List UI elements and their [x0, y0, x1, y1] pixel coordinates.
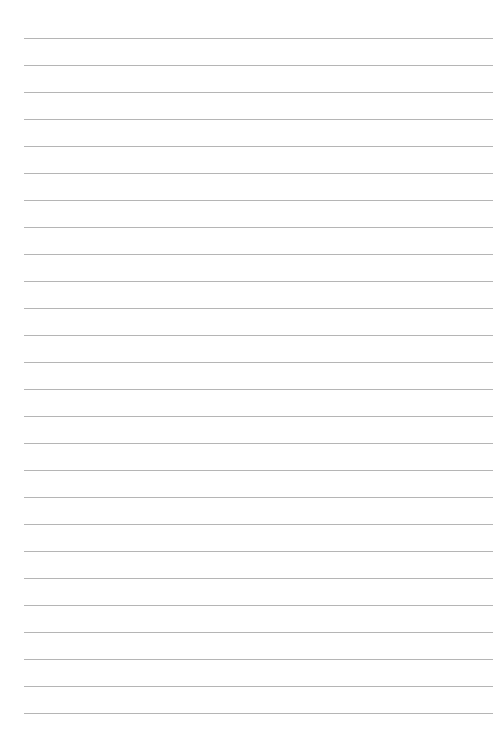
ruled-line — [24, 470, 493, 471]
ruled-line — [24, 119, 493, 120]
ruled-line — [24, 551, 493, 552]
ruled-line — [24, 335, 493, 336]
ruled-line — [24, 254, 493, 255]
ruled-line — [24, 416, 493, 417]
ruled-line — [24, 659, 493, 660]
ruled-line — [24, 713, 493, 714]
ruled-line — [24, 578, 493, 579]
ruled-line — [24, 524, 493, 525]
lined-paper-page — [0, 0, 493, 733]
ruled-line — [24, 38, 493, 39]
ruled-line — [24, 497, 493, 498]
ruled-line — [24, 308, 493, 309]
ruled-line — [24, 362, 493, 363]
ruled-line — [24, 605, 493, 606]
ruled-line — [24, 389, 493, 390]
ruled-line — [24, 281, 493, 282]
ruled-line — [24, 65, 493, 66]
ruled-line — [24, 92, 493, 93]
ruled-line — [24, 173, 493, 174]
ruled-line — [24, 146, 493, 147]
ruled-line — [24, 632, 493, 633]
ruled-line — [24, 227, 493, 228]
ruled-line — [24, 200, 493, 201]
ruled-line — [24, 686, 493, 687]
ruled-line — [24, 443, 493, 444]
